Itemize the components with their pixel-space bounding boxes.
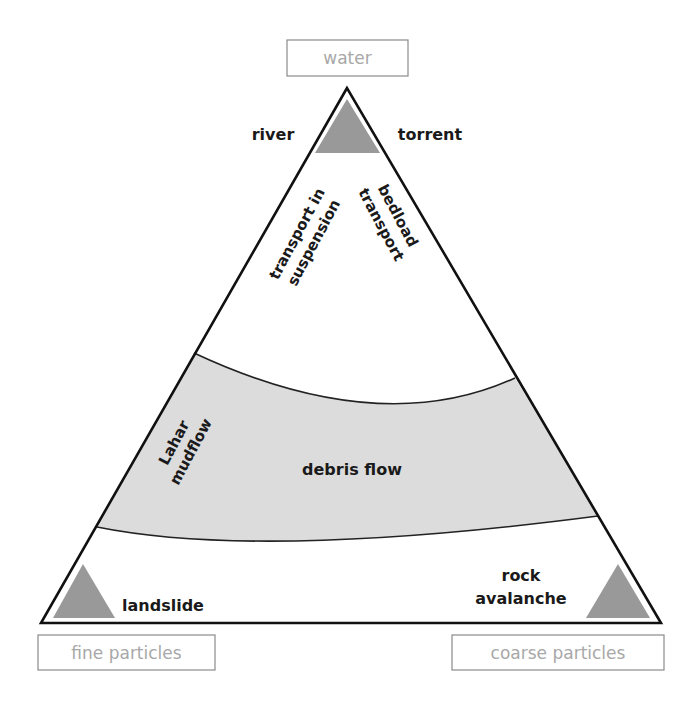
ternary-diagram: water fine particles coarse particles ri… [0,0,696,702]
water-vertex-box: water [287,40,408,76]
suspension-label: transport in suspension [265,185,345,292]
coarse-particles-vertex-box: coarse particles [452,635,664,670]
coarse-corner-marker [586,564,650,618]
torrent-label: torrent [398,125,463,144]
landslide-label: landslide [122,596,204,615]
debris-flow-label: debris flow [302,460,402,479]
fine-corner-marker [53,564,115,618]
fine-particles-vertex-box: fine particles [38,635,215,670]
river-label: river [252,125,295,144]
bedload-label: bedload transport [354,176,424,264]
fine-particles-label: fine particles [71,643,181,663]
water-label: water [323,48,371,68]
coarse-particles-label: coarse particles [491,643,626,663]
rock-label-line2: avalanche [475,589,567,608]
main-triangle [41,88,661,623]
rock-label-line1: rock [501,566,540,585]
